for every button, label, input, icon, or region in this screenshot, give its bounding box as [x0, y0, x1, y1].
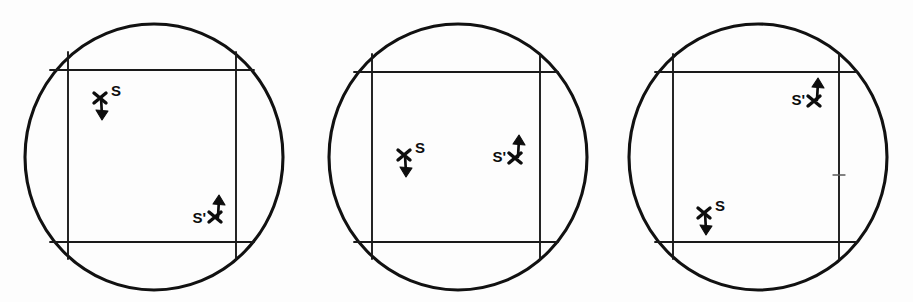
- spin-marker-s: S: [94, 82, 121, 120]
- spin-label-s: S: [415, 139, 425, 156]
- circle-outline: [629, 24, 887, 290]
- arrow-head-down: [700, 225, 712, 235]
- arrow-head-down: [400, 167, 412, 177]
- spin-marker-s-prime: S': [192, 195, 225, 226]
- spin-label-s-prime: S': [492, 148, 506, 165]
- circle-outline: [25, 24, 283, 290]
- inscribed-square-3: [655, 54, 857, 259]
- panel-right-circle: S' S: [607, 0, 912, 302]
- arrow-head-up: [213, 195, 225, 205]
- circle-outline-2: [329, 24, 587, 290]
- circle-outline-1: [25, 24, 283, 290]
- arrow-head-up: [513, 135, 525, 145]
- figure-root: S S': [0, 0, 913, 302]
- inscribed-square-1: [50, 52, 254, 259]
- spin-label-s: S: [715, 197, 725, 214]
- spin-marker-s: S: [398, 139, 425, 177]
- panel-middle-circle: S S': [304, 0, 609, 302]
- spin-label-s-prime: S': [791, 91, 805, 108]
- spin-marker-s: S: [698, 197, 725, 235]
- arrow-head-down: [96, 110, 108, 120]
- spin-label-s: S: [111, 82, 121, 99]
- arrow-head-up: [812, 78, 824, 88]
- circle-outline-3: [629, 24, 887, 290]
- spin-marker-s-prime: S': [492, 135, 525, 165]
- spin-label-s-prime: S': [192, 209, 206, 226]
- inscribed-square-2: [354, 54, 558, 259]
- circle-outline: [329, 24, 587, 290]
- panel-left-circle: S S': [0, 0, 305, 302]
- spin-marker-s-prime: S': [791, 78, 824, 108]
